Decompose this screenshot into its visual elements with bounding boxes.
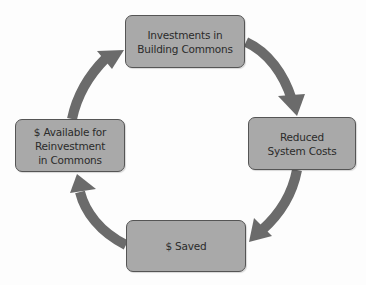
cycle-diagram: Investments in Building Commons Reduced … xyxy=(0,0,366,285)
node-label-line: Reinvestment xyxy=(34,139,106,153)
node-label-line: Building Commons xyxy=(137,42,233,56)
node-label-line: System Costs xyxy=(268,144,337,158)
node-dollars-available-for-reinvestment: $ Available for Reinvestment in Commons xyxy=(15,119,125,172)
arrow-right-to-bottom xyxy=(249,170,297,242)
arrow-top-to-right xyxy=(246,42,305,116)
node-label-line: $ Saved xyxy=(165,239,206,253)
node-dollars-saved: $ Saved xyxy=(126,220,246,272)
node-label-line: $ Available for xyxy=(34,125,106,139)
node-investments-in-building-commons: Investments in Building Commons xyxy=(125,15,245,68)
node-reduced-system-costs: Reduced System Costs xyxy=(248,117,356,170)
arrow-left-to-top xyxy=(72,50,124,119)
node-label-line: Reduced xyxy=(268,130,337,144)
arrow-bottom-to-left xyxy=(70,174,126,245)
node-label-line: in Commons xyxy=(34,153,106,167)
node-label-line: Investments in xyxy=(137,28,233,42)
